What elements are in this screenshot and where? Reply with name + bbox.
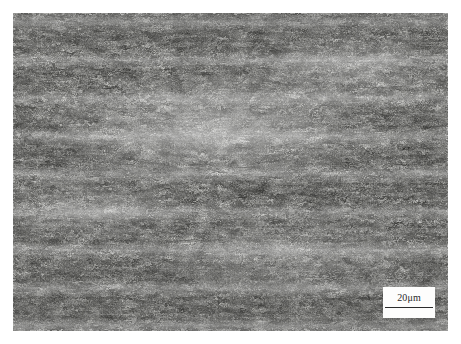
scale-bar-line [385,307,433,308]
micrograph-figure: Grayscale optical micrograph of an etche… [13,13,448,331]
scale-bar-label: 20μm [397,292,421,303]
figure-page: Grayscale optical micrograph of an etche… [0,0,461,344]
micrograph-image: Grayscale optical micrograph of an etche… [13,13,448,331]
scale-bar: 20μm [383,287,435,318]
micrograph-speckle-layer [13,13,448,331]
